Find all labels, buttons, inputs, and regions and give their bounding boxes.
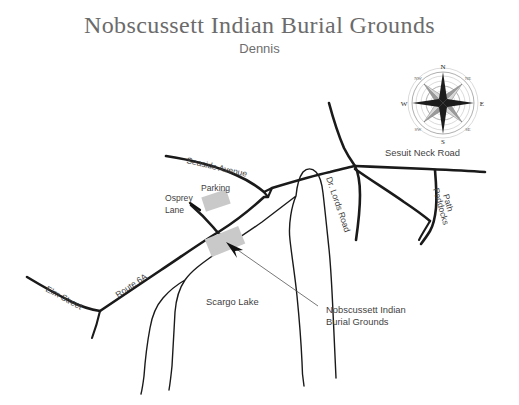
compass-south-label: S: [441, 138, 445, 146]
compass-northeast-label: NE: [465, 76, 471, 81]
compass-north-label: N: [440, 63, 445, 71]
label-osprey-lane-line1: Osprey: [165, 193, 193, 203]
road-sesuit-neck-road: [355, 166, 485, 172]
label-scargo-lake: Scargo Lake: [206, 296, 259, 307]
compass-east-label: E: [480, 100, 484, 108]
burial-grounds-plot-shape: [205, 226, 245, 257]
compass-southwest-label: SW: [415, 127, 423, 132]
road-branch-southwest: [355, 169, 430, 221]
label-dr-lords-road: Dr. Lords Road: [324, 175, 352, 233]
compass-southeast-label: SE: [465, 127, 471, 132]
label-elm-street: Elm Street: [44, 284, 85, 312]
compass-west-label: W: [401, 100, 408, 108]
label-seaside-avenue: Seaside Avenue: [186, 155, 249, 179]
road-junction-stub-south: [92, 311, 100, 338]
road-junction-triangle: [264, 188, 272, 197]
map-page: Nobscussett Indian Burial Grounds Dennis: [0, 0, 519, 405]
label-sesuit-neck-road: Sesuit Neck Road: [385, 147, 460, 158]
compass-northwest-label: NW: [414, 76, 422, 81]
label-parking: Parking: [201, 183, 230, 193]
label-burial-grounds-line1: Nobscussett Indian: [326, 304, 406, 315]
map-canvas: N S E W NE NW SE SW: [0, 0, 519, 405]
label-route-6a: Route 6A: [114, 271, 150, 299]
compass-rose: N S E W NE NW SE SW: [401, 63, 484, 146]
label-burial-grounds-line2: Burial Grounds: [326, 316, 389, 327]
label-osprey-lane-line2: Lane: [165, 205, 184, 215]
